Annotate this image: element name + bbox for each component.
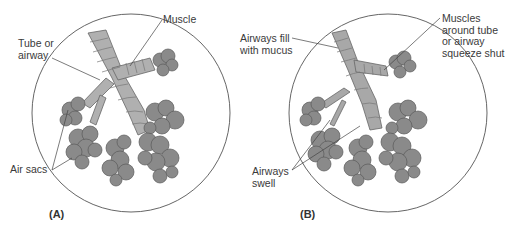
- label-muscles-line4: squeeze shut: [442, 48, 504, 60]
- label-airways-fill-with-mucus: Airways fill with mucus: [240, 33, 293, 56]
- panel-a-normal-airway: Muscle Tube or airway Air sacs (A): [0, 0, 258, 231]
- label-mucus-line2: with mucus: [240, 45, 293, 57]
- panel-letter-b: (B): [300, 208, 315, 220]
- label-airways-swell: Airways swell: [252, 166, 289, 189]
- label-swell-line1: Airways: [252, 166, 289, 178]
- panel-b-constricted-airway: Airways fill with mucus Muscles around t…: [258, 0, 516, 231]
- label-tube-line2: airway: [18, 50, 54, 62]
- label-muscles-line1: Muscles: [442, 13, 504, 25]
- label-tube-line1: Tube or: [18, 38, 54, 50]
- label-tube-or-airway: Tube or airway: [18, 38, 54, 61]
- label-swell-line2: swell: [252, 178, 289, 190]
- label-muscle: Muscle: [163, 14, 196, 26]
- panel-letter-a: (A): [49, 208, 64, 220]
- label-air-sacs: Air sacs: [10, 164, 47, 176]
- normal-airway-illustration: [0, 0, 258, 231]
- label-mucus-line1: Airways fill: [240, 33, 293, 45]
- label-muscles-line3: or airway: [442, 36, 504, 48]
- label-muscles-squeeze-shut: Muscles around tube or airway squeeze sh…: [442, 13, 504, 59]
